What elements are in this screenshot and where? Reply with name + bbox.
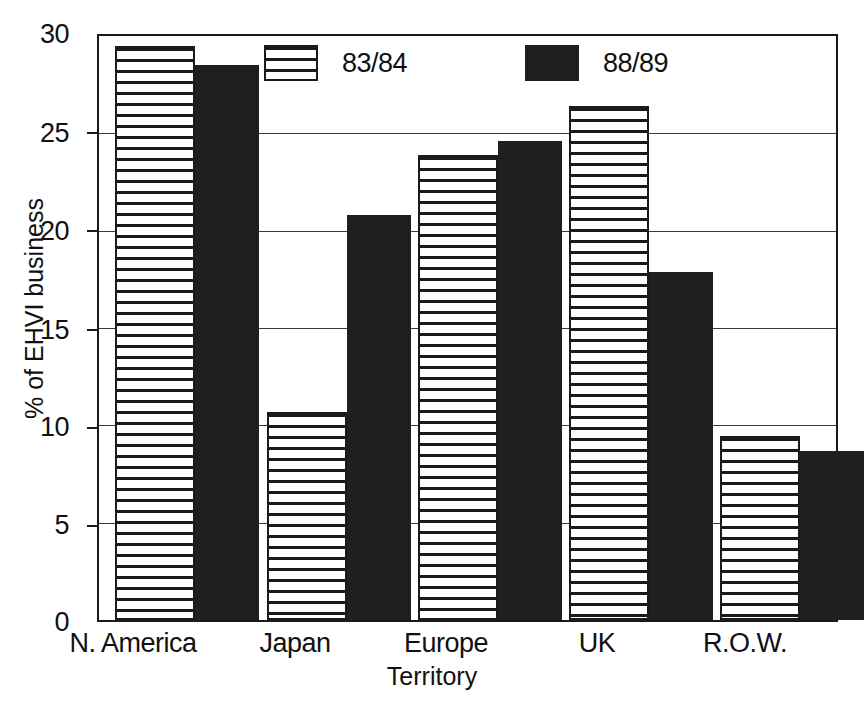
y-tick-label-5: 5 <box>11 512 69 539</box>
bar-row-83-84 <box>720 436 800 620</box>
y-tick-mark-5 <box>87 525 97 527</box>
legend-swatch-hatched-icon <box>264 45 318 81</box>
bar-row-88-89 <box>800 451 864 620</box>
y-axis-title: % of EHVI business <box>22 109 47 509</box>
legend-label-88-89: 88/89 <box>603 50 668 77</box>
chart-legend: 83/84 88/89 <box>97 34 838 92</box>
legend-entry-83-84: 83/84 <box>264 42 407 84</box>
y-tick-label-30: 30 <box>11 21 69 48</box>
plot-area <box>97 34 838 622</box>
legend-entry-88-89: 88/89 <box>525 42 668 84</box>
bar-uk-83-84 <box>569 106 649 620</box>
x-tick-label-row: R.O.W. <box>655 628 835 658</box>
bar-n-america-88-89 <box>195 65 259 620</box>
y-tick-mark-20 <box>87 230 97 232</box>
x-tick-label-europe: Europe <box>356 628 536 658</box>
bar-japan-83-84 <box>267 412 347 620</box>
y-tick-label-20: 20 <box>11 218 69 245</box>
x-tick-label-n-america: N. America <box>43 628 223 658</box>
legend-label-83-84: 83/84 <box>342 50 407 77</box>
bar-n-america-83-84 <box>115 46 195 620</box>
y-tick-label-25: 25 <box>11 120 69 147</box>
bar-japan-88-89 <box>347 215 411 620</box>
y-tick-label-10: 10 <box>11 414 69 441</box>
x-axis-title: Territory <box>0 663 864 690</box>
y-tick-mark-15 <box>87 329 97 331</box>
bar-chart: % of EHVI business 30 25 20 15 10 5 0 <box>0 0 864 711</box>
y-tick-mark-25 <box>87 132 97 134</box>
y-tick-label-15: 15 <box>11 317 69 344</box>
bar-uk-88-89 <box>649 272 713 620</box>
y-tick-mark-10 <box>87 427 97 429</box>
bar-europe-88-89 <box>498 141 562 620</box>
legend-swatch-solid-icon <box>525 45 579 81</box>
bar-europe-83-84 <box>418 155 498 620</box>
x-tick-label-uk: UK <box>517 628 677 658</box>
